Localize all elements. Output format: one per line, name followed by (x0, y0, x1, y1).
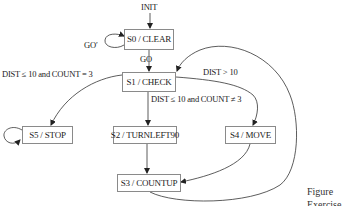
state-s5-stop: S5 / STOP (22, 126, 73, 144)
figure-caption-line1: Figure (307, 186, 333, 197)
arrow-s5-self-loop (4, 128, 22, 144)
transition-label-s1-s4: DIST > 10 (203, 67, 237, 77)
state-s3-countup: S3 / COUNTUP (117, 174, 181, 192)
state-s2-turnleft90: S2 / TURNLEFT90 (113, 126, 177, 144)
arrow-s0-self-loop (105, 34, 124, 47)
transition-label-s1-s2: DIST ≤ 10 and COUNT ≠ 3 (151, 94, 241, 104)
state-s0-clear: S0 / CLEAR (124, 29, 174, 50)
arrow-s4-to-s3 (181, 144, 250, 182)
state-s4-move: S4 / MOVE (225, 126, 276, 144)
init-label: INIT (141, 2, 157, 12)
transition-label-s1-s5: DIST ≤ 10 and COUNT = 3 (2, 69, 93, 79)
figure-caption-line2: Exercise (307, 199, 341, 206)
transition-label-go-prime: GO′ (84, 40, 98, 50)
transition-label-go: GO (140, 54, 152, 64)
state-diagram: INIT S0 / CLEAR GO′ GO S1 / CHECK DIST ≤… (0, 0, 343, 206)
arrow-s1-to-s5 (51, 75, 122, 125)
state-s1-check: S1 / CHECK (122, 72, 176, 92)
